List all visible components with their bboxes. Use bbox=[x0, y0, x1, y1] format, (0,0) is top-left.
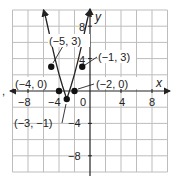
label-m2-0: (−2, 0) bbox=[96, 78, 128, 90]
point-m2-0 bbox=[71, 88, 77, 94]
tick-label-x-0: 0 bbox=[80, 96, 86, 108]
point-labels: (−5, 3) (−1, 3) (−4, 0) (−2, 0) (−3, −1) bbox=[14, 34, 138, 129]
label-m4-0: (−4, 0) bbox=[15, 78, 47, 90]
x-axis-label: x bbox=[155, 76, 163, 90]
tick-label-y-m8: −8 bbox=[68, 150, 81, 162]
tick-label-y-4: 4 bbox=[79, 54, 85, 66]
tick-label-y-8: 8 bbox=[79, 21, 85, 33]
tick-label-x-4: 4 bbox=[119, 96, 125, 108]
label-m5-3: (−5, 3) bbox=[49, 35, 81, 47]
point-m4-0 bbox=[56, 88, 62, 94]
coordinate-plane: −8 −4 0 4 8 8 4 −4 −8 x y (−5, 3) (−1, 3… bbox=[0, 0, 177, 190]
tick-label-x-8: 8 bbox=[149, 96, 155, 108]
point-m5-3 bbox=[48, 63, 54, 69]
y-axis-label: y bbox=[94, 10, 102, 24]
label-m1-3: (−1, 3) bbox=[98, 51, 130, 63]
point-m3-m1 bbox=[64, 96, 70, 102]
label-m3-m1: (−3, −1) bbox=[14, 117, 53, 129]
tick-label-x-m4: −4 bbox=[48, 96, 61, 108]
stray-mark: , bbox=[2, 85, 5, 97]
tick-label-x-m8: −8 bbox=[18, 96, 31, 108]
tick-label-y-m4: −4 bbox=[68, 117, 81, 129]
